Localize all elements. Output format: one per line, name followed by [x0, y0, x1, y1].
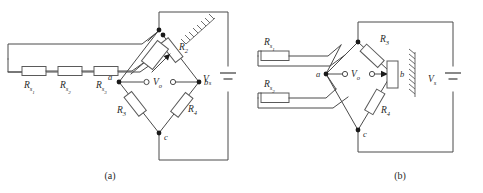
bottom-supply-rail	[159, 92, 228, 160]
bridge-resistor-3	[360, 44, 384, 67]
voltage-source: Vs	[203, 73, 236, 86]
gauge-resistor-1-body	[261, 51, 289, 61]
beam-upper-edge	[8, 30, 160, 59]
voltage-source-label: Vs	[428, 74, 437, 86]
gauge-resistor-2: Rs2	[261, 79, 289, 103]
circuit-diagram-panel-a: Rs1 Rs2 Rs3	[0, 0, 248, 168]
output-terminal-left	[144, 79, 149, 84]
gauge-resistor-1-body	[22, 67, 46, 76]
bridge-arm-bottom-left	[326, 74, 358, 130]
node-b-label: b	[400, 69, 404, 79]
node-a-label: a	[316, 69, 320, 79]
node-a-label: a	[108, 72, 112, 82]
node-c-label: c	[363, 129, 367, 139]
node-top-secondary-dot	[161, 33, 166, 38]
fixed-support-hatch-icon	[409, 49, 415, 97]
node-top-dot	[157, 28, 162, 33]
node-c-label: c	[164, 132, 168, 142]
gauge-resistor-1: Rs1	[261, 37, 289, 61]
gauge-resistor-1-label: Rs1	[23, 80, 35, 95]
gauge-resistor-3-body	[94, 67, 118, 76]
node-a-dot	[117, 80, 122, 85]
fixed-support-hatch-icon	[181, 14, 215, 44]
node-top-dot	[356, 40, 361, 45]
gauge-resistor-3-label: Rs3	[95, 80, 107, 95]
node-c-dot	[157, 131, 162, 136]
bridge-resistor-3-label: R3	[116, 105, 127, 117]
bridge-resistor-3-body	[360, 44, 384, 67]
output-voltage-label: Vo	[351, 69, 361, 81]
panel-a-caption: (a)	[80, 170, 140, 181]
bridge-resistor-3-label: R3	[379, 34, 390, 46]
node-b-dot	[197, 80, 202, 85]
bridge-resistor-3	[124, 91, 146, 116]
voltage-source: Vs	[428, 73, 461, 86]
panel-b-caption: (b)	[370, 170, 430, 181]
gauge-resistor-1: Rs1	[22, 67, 46, 95]
circuit-diagram-panel-b: Rs1 Rs2 R3	[248, 0, 483, 168]
bridge-resistor-3-body	[124, 91, 146, 116]
node-b-element-body	[387, 61, 398, 88]
gauge-resistor-2: Rs2	[58, 67, 82, 95]
gauge-resistor-2-label: Rs2	[263, 79, 275, 94]
bridge-resistor-4-label: R4	[187, 104, 198, 116]
bridge-resistor-4-label: R4	[380, 105, 391, 117]
figure-container: Rs1 Rs2 Rs3	[0, 0, 483, 193]
output-voltage-label: Vo	[153, 77, 163, 89]
gauge-resistor-3: Rs3	[94, 67, 118, 95]
gauge-1-right-lead	[289, 45, 341, 56]
node-c-dot	[356, 128, 361, 133]
output-terminal-right	[369, 71, 374, 76]
output-terminal-right	[170, 79, 175, 84]
gauge-resistor-2-label: Rs2	[59, 80, 71, 95]
output-terminal-left	[342, 71, 347, 76]
node-a-dot	[324, 72, 329, 77]
gauge-2-right-lead	[289, 89, 336, 98]
gauge-resistor-2-body	[58, 67, 82, 76]
gauge-resistor-1-label: Rs1	[263, 37, 275, 52]
gauge-resistor-2-body	[261, 93, 289, 103]
